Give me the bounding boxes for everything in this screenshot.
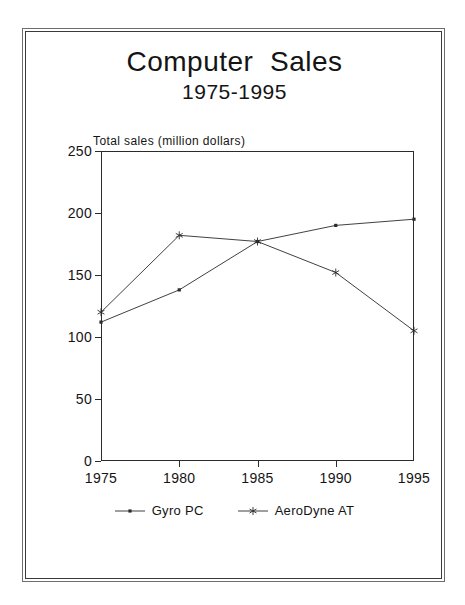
x-axis-tick-label: 1975 (85, 470, 117, 486)
x-axis-tick-mark (179, 461, 180, 467)
chart-subtitle: 1975-1995 (23, 79, 446, 105)
y-axis-tick-label: 50 (76, 391, 92, 407)
plot-area: 050100150200250 19751980198519901995 (101, 151, 414, 461)
data-point-marker-asterisk (332, 269, 339, 277)
legend-item[interactable]: Gyro PC (115, 503, 204, 518)
data-point-marker-dot (334, 224, 337, 227)
x-axis-tick-mark (336, 461, 337, 467)
x-axis-tick-label: 1985 (241, 470, 273, 486)
x-axis-tick-label: 1980 (163, 470, 195, 486)
y-axis-tick-mark (95, 461, 101, 462)
series-line (101, 235, 414, 330)
series-lines (101, 151, 414, 461)
legend-swatch-dot-icon (115, 505, 145, 517)
title-block: Computer Sales 1975-1995 (23, 45, 446, 105)
y-axis-tick-label: 200 (68, 205, 92, 221)
legend-item-label: AeroDyne AT (275, 503, 355, 518)
series-line (101, 219, 414, 322)
x-axis-tick-label: 1990 (320, 470, 352, 486)
data-point-marker-asterisk (411, 327, 418, 335)
x-axis-tick-label: 1995 (398, 470, 430, 486)
data-point-marker-dot (128, 509, 131, 512)
legend-swatch-asterisk-icon (238, 505, 268, 517)
legend: Gyro PCAeroDyne AT (23, 503, 446, 518)
y-axis-tick-label: 100 (68, 329, 92, 345)
legend-item-label: Gyro PC (152, 503, 204, 518)
data-point-marker-dot (178, 288, 181, 291)
data-point-marker-dot (99, 321, 102, 324)
legend-item[interactable]: AeroDyne AT (238, 503, 355, 518)
x-axis-tick-mark (258, 461, 259, 467)
data-point-marker-dot (412, 218, 415, 221)
y-axis-tick-label: 150 (68, 267, 92, 283)
page-title: Computer Sales (23, 45, 446, 79)
y-axis-tick-label: 0 (84, 453, 92, 469)
y-axis-label: Total sales (million dollars) (93, 134, 245, 148)
y-axis-tick-label: 250 (68, 143, 92, 159)
chart-frame: Computer Sales 1975-1995 Total sales (mi… (22, 28, 445, 582)
